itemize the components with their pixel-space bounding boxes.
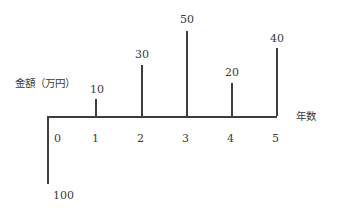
outflow-bar-year-0: [47, 116, 49, 184]
value-label-year-4: 20: [225, 67, 239, 79]
tick-label-0: 0: [54, 133, 61, 145]
tick-label-3: 3: [182, 133, 189, 145]
inflow-bar-year-1: [95, 99, 97, 116]
tick-label-2: 2: [137, 133, 144, 145]
time-axis: [47, 116, 277, 118]
y-axis-label: 金額（万円）: [15, 77, 75, 89]
inflow-bar-year-3: [186, 31, 188, 116]
inflow-bar-year-2: [141, 65, 143, 116]
inflow-bar-year-5: [276, 48, 278, 116]
value-label-year-0: 100: [53, 190, 74, 202]
value-label-year-1: 10: [90, 84, 104, 96]
tick-label-4: 4: [227, 133, 234, 145]
tick-label-5: 5: [272, 133, 279, 145]
value-label-year-5: 40: [270, 33, 284, 45]
inflow-bar-year-4: [231, 83, 233, 116]
tick-label-1: 1: [92, 133, 99, 145]
value-label-year-3: 50: [180, 14, 194, 26]
x-axis-label: 年数: [296, 110, 316, 122]
value-label-year-2: 30: [135, 49, 149, 61]
